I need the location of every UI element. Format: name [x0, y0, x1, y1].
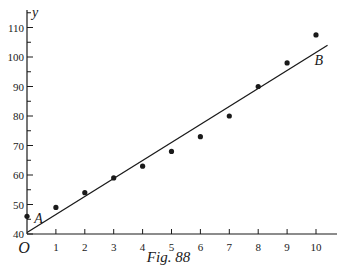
chart: 40506070809010011012345678910ytOAB — [0, 0, 337, 274]
data-point — [82, 190, 87, 195]
y-tick-label: 100 — [8, 51, 25, 63]
point-label-b: B — [315, 53, 324, 68]
point-label-a: A — [33, 211, 43, 226]
y-tick-label: 70 — [13, 140, 25, 152]
data-point — [313, 32, 318, 37]
y-tick-label: 80 — [13, 110, 25, 122]
y-tick-label: 50 — [13, 199, 25, 211]
data-point — [227, 113, 232, 118]
y-tick-label: 110 — [8, 22, 25, 34]
data-point — [285, 60, 290, 65]
y-tick-label: 60 — [13, 169, 25, 181]
y-tick-label: 90 — [13, 81, 25, 93]
y-axis-label: y — [30, 5, 39, 20]
data-point — [53, 205, 58, 210]
data-point — [140, 164, 145, 169]
figure-caption: Fig. 88 — [0, 249, 337, 266]
data-point — [198, 134, 203, 139]
fitted-line — [27, 45, 328, 232]
data-point — [169, 149, 174, 154]
data-point — [24, 214, 29, 219]
